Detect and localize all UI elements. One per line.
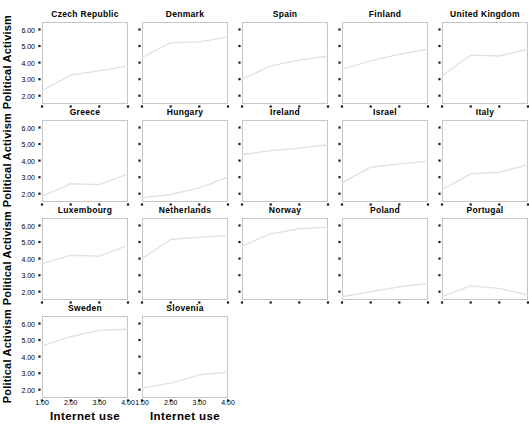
y-tick-mark <box>238 62 240 64</box>
x-axis-title: Internet use <box>42 410 128 422</box>
y-tick-mark <box>38 45 40 47</box>
facet-strip-2: Greece2.003.004.005.006.00HungaryIreland… <box>42 104 528 202</box>
y-tick-mark <box>338 78 340 80</box>
facet-plot-area: 2.003.004.005.006.00 <box>42 22 128 104</box>
facet-svg <box>42 120 128 202</box>
data-line <box>42 329 128 346</box>
facet-svg <box>342 120 428 202</box>
facet-finland: Finland <box>342 6 428 104</box>
panel-frame <box>143 121 228 202</box>
facet-czech-republic: Czech Republic2.003.004.005.006.00 <box>42 6 128 104</box>
facet-svg <box>342 218 428 300</box>
facet-title: Sweden <box>42 300 128 316</box>
facet-luxembourg: Luxembourg2.003.004.005.006.00 <box>42 202 128 300</box>
facet-ireland: Ireland <box>242 104 328 202</box>
y-tick-mark <box>238 241 240 243</box>
facet-plot-area: 2.003.004.005.006.00 <box>42 120 128 202</box>
facet-svg <box>142 120 228 202</box>
facet-svg <box>142 316 228 398</box>
panel-frame <box>143 219 228 300</box>
y-tick-label: 6.00 <box>21 320 35 327</box>
facet-row-2: Political Activism Greece2.003.004.005.0… <box>0 104 529 202</box>
y-tick-mark <box>138 274 140 276</box>
panel-frame <box>43 121 128 202</box>
facet-strip-3: Luxembourg2.003.004.005.006.00Netherland… <box>42 202 528 300</box>
panel-frame <box>243 121 328 202</box>
y-tick-mark <box>338 258 340 260</box>
facet-title: Slovenia <box>142 300 228 316</box>
y-tick-mark <box>138 291 140 293</box>
y-tick-labels: 2.003.004.005.006.00 <box>11 120 38 202</box>
y-tick-mark <box>338 160 340 162</box>
data-line <box>242 56 328 79</box>
y-tick-label: 5.00 <box>21 43 35 50</box>
facet-row-1: Political Activism Czech Republic2.003.0… <box>0 6 529 104</box>
y-tick-mark <box>438 45 440 47</box>
panel-frame <box>343 121 428 202</box>
y-tick-mark <box>38 78 40 80</box>
y-tick-mark <box>338 45 340 47</box>
facet-title: Portugal <box>442 202 528 218</box>
facet-plot-area <box>142 22 228 104</box>
y-tick-mark <box>438 143 440 145</box>
y-tick-label: 6.00 <box>21 124 35 131</box>
x-tick-labels: 1.002.003.004.00 <box>142 398 228 409</box>
facet-title: Spain <box>242 6 328 22</box>
y-tick-label: 2.00 <box>21 288 35 295</box>
y-tick-mark <box>338 143 340 145</box>
y-tick-mark <box>138 241 140 243</box>
y-tick-mark <box>38 224 40 226</box>
y-tick-mark <box>238 28 240 30</box>
y-tick-mark <box>238 258 240 260</box>
facet-italy: Italy <box>442 104 528 202</box>
y-tick-mark <box>338 274 340 276</box>
x-tick-label: 3.00 <box>192 399 206 406</box>
y-tick-mark <box>38 160 40 162</box>
y-tick-label: 2.00 <box>21 386 35 393</box>
y-tick-label: 2.00 <box>21 190 35 197</box>
y-tick-mark <box>38 274 40 276</box>
y-tick-label: 3.00 <box>21 76 35 83</box>
y-tick-label: 5.00 <box>21 337 35 344</box>
y-tick-mark <box>438 241 440 243</box>
y-tick-labels: 2.003.004.005.006.00 <box>11 22 38 104</box>
y-tick-mark <box>138 339 140 341</box>
facet-plot-area <box>242 218 328 300</box>
facet-portugal: Portugal <box>442 202 528 300</box>
panel-frame <box>443 121 528 202</box>
y-tick-label: 4.00 <box>21 157 35 164</box>
facet-title: Israel <box>342 104 428 120</box>
data-line <box>342 49 428 69</box>
y-tick-label: 4.00 <box>21 353 35 360</box>
y-tick-label: 6.00 <box>21 26 35 33</box>
data-line <box>342 161 428 183</box>
facet-plot-area <box>342 22 428 104</box>
facet-hungary: Hungary <box>142 104 228 202</box>
facet-svg <box>442 218 528 300</box>
facet-svg <box>42 218 128 300</box>
y-tick-label: 4.00 <box>21 255 35 262</box>
facet-svg <box>242 218 328 300</box>
y-tick-mark <box>338 28 340 30</box>
panel-frame <box>43 219 128 300</box>
x-tick-label: 4.00 <box>121 399 135 406</box>
facet-svg <box>242 120 328 202</box>
y-tick-mark <box>138 126 140 128</box>
y-tick-mark <box>138 28 140 30</box>
y-tick-label: 3.00 <box>21 370 35 377</box>
facet-netherlands: Netherlands <box>142 202 228 300</box>
facet-title: United Kingdom <box>442 6 528 22</box>
y-tick-mark <box>38 356 40 358</box>
facet-plot-area <box>442 120 528 202</box>
y-tick-mark <box>238 126 240 128</box>
y-tick-mark <box>238 176 240 178</box>
data-line <box>442 286 528 297</box>
y-tick-mark <box>338 126 340 128</box>
facet-plot-area <box>142 316 228 398</box>
x-tick-labels: 1.002.003.004.00 <box>42 398 128 409</box>
y-tick-mark <box>38 28 40 30</box>
facet-svg <box>342 22 428 104</box>
y-tick-labels: 2.003.004.005.006.00 <box>11 218 38 300</box>
x-axis-title: Internet use <box>142 410 228 422</box>
y-tick-label: 2.00 <box>21 92 35 99</box>
